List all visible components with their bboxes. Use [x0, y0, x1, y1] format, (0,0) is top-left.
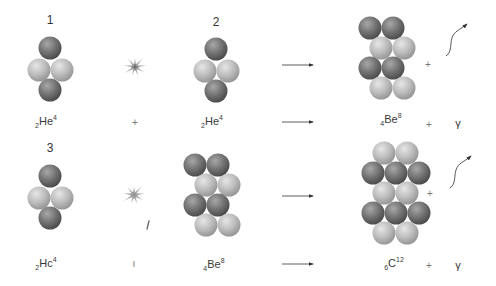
- debris-streak: [147, 221, 149, 229]
- helium-4-nucleus: [194, 38, 240, 103]
- collision-star-icon: [123, 57, 147, 77]
- neutron-sphere: [373, 222, 396, 245]
- neutron-sphere: [195, 174, 218, 197]
- step-number: 1: [47, 13, 54, 27]
- nuclide-label: 2Hc4: [35, 256, 56, 271]
- neutron-sphere: [51, 187, 74, 210]
- plus-sign: +: [425, 59, 431, 70]
- proton-sphere: [184, 154, 207, 177]
- neutron-sphere: [195, 214, 218, 237]
- neutron-sphere: [28, 187, 51, 210]
- proton-sphere: [359, 57, 382, 80]
- nuclide-label: 4Be8: [203, 257, 224, 272]
- step-number: 2: [213, 15, 220, 29]
- proton-sphere: [362, 162, 385, 185]
- collision-star-icon: [122, 185, 146, 205]
- neutron-sphere: [217, 60, 240, 83]
- proton-sphere: [205, 80, 228, 103]
- neutron-sphere: [370, 77, 393, 100]
- nucleons-layer: [28, 17, 431, 245]
- neutron-sphere: [194, 60, 217, 83]
- beryllium-8-nucleus: [184, 154, 241, 237]
- neutron-sphere: [396, 182, 419, 205]
- proton-sphere: [359, 17, 382, 40]
- proton-sphere: [39, 207, 62, 230]
- plus-sign: +: [427, 188, 433, 199]
- neutron-sphere: [393, 37, 416, 60]
- proton-sphere: [205, 38, 228, 61]
- step-number: 3: [47, 141, 54, 155]
- proton-sphere: [408, 162, 431, 185]
- nuclide-label: 2He4: [201, 114, 223, 129]
- plus-sign: +: [132, 117, 138, 128]
- gamma-ray-icon: [450, 156, 471, 188]
- proton-sphere: [184, 194, 207, 217]
- gamma-label: γ: [455, 117, 461, 129]
- neutron-sphere: [28, 59, 51, 82]
- neutron-sphere: [218, 214, 241, 237]
- helium-4-nucleus: [28, 165, 74, 230]
- proton-sphere: [385, 202, 408, 225]
- proton-sphere: [39, 79, 62, 102]
- nuclide-label: 2He4: [35, 114, 57, 129]
- proton-sphere: [382, 17, 405, 40]
- proton-sphere: [207, 194, 230, 217]
- diagram-canvas: [0, 0, 496, 286]
- gamma-ray-icon: [446, 24, 467, 56]
- carbon-12-nucleus: [362, 142, 431, 245]
- proton-sphere: [385, 162, 408, 185]
- plus-sign: ı: [133, 258, 136, 269]
- neutron-sphere: [51, 59, 74, 82]
- helium-4-nucleus: [28, 37, 74, 102]
- neutron-sphere: [393, 77, 416, 100]
- plus-sign: +: [426, 119, 432, 130]
- triple-alpha-diagram: 1 2 3 + + 2He4 + 2He4 4Be8 + γ 2Hc4 ı 4B…: [0, 0, 496, 286]
- proton-sphere: [382, 57, 405, 80]
- neutron-sphere: [373, 142, 396, 165]
- neutron-sphere: [370, 37, 393, 60]
- beryllium-8-nucleus: [359, 17, 416, 100]
- proton-sphere: [39, 37, 62, 60]
- proton-sphere: [408, 202, 431, 225]
- neutron-sphere: [373, 182, 396, 205]
- neutron-sphere: [396, 222, 419, 245]
- neutron-sphere: [218, 174, 241, 197]
- proton-sphere: [207, 154, 230, 177]
- plus-sign: +: [426, 260, 432, 271]
- gamma-label: γ: [455, 259, 461, 271]
- nuclide-label: 4Be8: [380, 112, 401, 127]
- proton-sphere: [39, 165, 62, 188]
- proton-sphere: [362, 202, 385, 225]
- nuclide-label: 6C12: [384, 256, 404, 271]
- neutron-sphere: [396, 142, 419, 165]
